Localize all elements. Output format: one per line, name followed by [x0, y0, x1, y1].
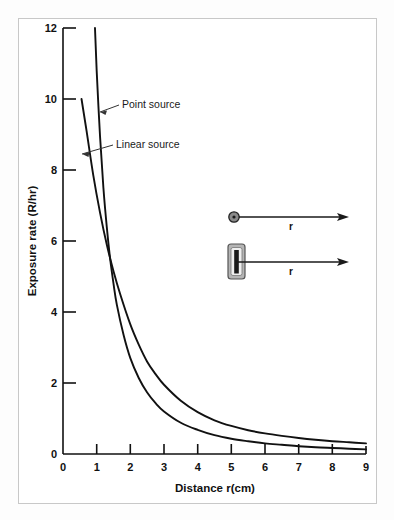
x-tick-label-5: 5: [228, 461, 234, 473]
y-tick-label-10: 10: [45, 93, 57, 105]
inset-point-source-row: r: [229, 212, 349, 232]
x-tick-label-2: 2: [127, 461, 133, 473]
annotation-linear-source: Linear source: [116, 138, 180, 150]
point-source-circle-core-icon: [232, 215, 235, 218]
figure-root: 12 10 8 6 4 2 0 0 1 2 3 4: [0, 0, 394, 520]
inset-diagram: r r: [228, 212, 349, 279]
figure-frame: 12 10 8 6 4 2 0 0 1 2 3 4: [18, 18, 377, 504]
x-tick-label-7: 7: [296, 461, 302, 473]
x-tick-label-4: 4: [195, 461, 202, 473]
x-tick-label-0: 0: [60, 461, 66, 473]
x-tick-label-9: 9: [363, 461, 369, 473]
x-tick-label-6: 6: [262, 461, 268, 473]
linear-source-distance-label: r: [289, 266, 293, 277]
x-tick-label-1: 1: [94, 461, 100, 473]
y-tick-label-12: 12: [45, 22, 57, 34]
y-tick-label-4: 4: [51, 306, 58, 318]
x-axis-title: Distance r(cm): [175, 482, 255, 494]
y-tick-label-0: 0: [51, 448, 57, 460]
point-source-distance-label: r: [289, 221, 293, 232]
y-axis-ticks: [63, 28, 76, 383]
inset-linear-source-row: r: [228, 244, 349, 279]
y-axis-title: Exposure rate (R/hr): [26, 186, 38, 297]
curve-linear-source: [82, 99, 366, 443]
exposure-rate-vs-distance-chart: 12 10 8 6 4 2 0 0 1 2 3 4: [19, 19, 376, 503]
x-tick-label-3: 3: [161, 461, 167, 473]
x-tick-label-8: 8: [329, 461, 335, 473]
y-tick-label-2: 2: [51, 377, 57, 389]
annotation-point-source: Point source: [122, 98, 181, 110]
curve-point-source: [95, 28, 366, 449]
y-tick-label-6: 6: [51, 235, 57, 247]
y-tick-label-8: 8: [51, 164, 57, 176]
